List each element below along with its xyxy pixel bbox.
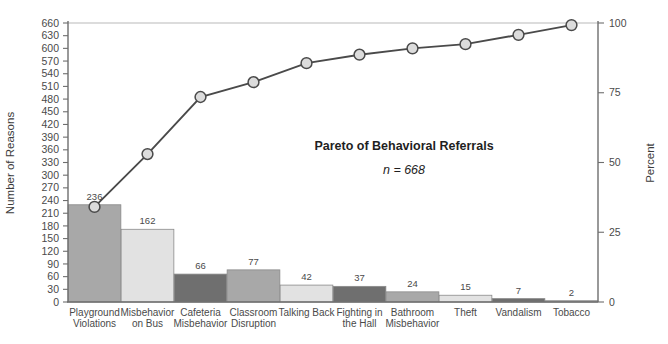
bar[interactable] (280, 285, 333, 302)
bar-value-label: 24 (407, 278, 418, 289)
line-marker[interactable] (513, 29, 524, 40)
y-tick-label: 510 (41, 80, 59, 92)
x-category-label: Theft (454, 307, 477, 318)
line-marker[interactable] (407, 43, 418, 54)
line-marker[interactable] (354, 49, 365, 60)
chart-canvas: 0306090120150180210240270300330360390420… (0, 0, 668, 344)
y-axis-title: Number of Reasons (4, 112, 16, 215)
bar-value-label: 77 (248, 256, 259, 267)
y2-tick-label: 0 (609, 296, 615, 308)
y-tick-label: 360 (41, 143, 59, 155)
bar-value-label: 15 (460, 281, 471, 292)
y-tick-label: 630 (41, 29, 59, 41)
x-category-label: on Bus (132, 318, 163, 329)
bar-value-label: 66 (195, 260, 206, 271)
line-markers (89, 20, 577, 213)
pareto-chart: 0306090120150180210240270300330360390420… (0, 0, 668, 344)
y-tick-label: 90 (47, 258, 59, 270)
right-axis: 0255075100 (598, 17, 627, 308)
cumulative-line (95, 25, 572, 207)
y-tick-label: 60 (47, 270, 59, 282)
y-tick-label: 450 (41, 105, 59, 117)
bar-value-label: 162 (140, 215, 156, 226)
bar[interactable] (227, 270, 280, 302)
x-category-label: Tobacco (553, 307, 591, 318)
y-tick-label: 180 (41, 220, 59, 232)
y2-axis-title: Percent (644, 142, 656, 182)
category-labels: PlaygroundViolationsMisbehavioron BusCaf… (69, 307, 590, 329)
chart-subtitle: n = 668 (383, 163, 425, 177)
left-axis: 0306090120150180210240270300330360390420… (41, 17, 68, 308)
y-tick-label: 240 (41, 194, 59, 206)
chart-titles: Pareto of Behavioral Referralsn = 668 (314, 139, 493, 177)
line-marker[interactable] (89, 201, 100, 212)
y-tick-label: 300 (41, 169, 59, 181)
y-tick-label: 480 (41, 93, 59, 105)
y-tick-label: 390 (41, 131, 59, 143)
bar-value-label: 37 (354, 272, 365, 283)
y-tick-label: 540 (41, 67, 59, 79)
line-marker[interactable] (195, 92, 206, 103)
y-tick-label: 0 (53, 296, 59, 308)
y-tick-label: 420 (41, 118, 59, 130)
cumulative-percent-line (95, 25, 572, 207)
y-tick-label: 210 (41, 207, 59, 219)
bar-value-label: 7 (516, 285, 521, 296)
x-category-label: Cafeteria (180, 307, 221, 318)
x-category-label: Talking Back (278, 307, 335, 318)
y-tick-label: 570 (41, 55, 59, 67)
bar-value-label: 42 (301, 271, 312, 282)
y-tick-label: 30 (47, 283, 59, 295)
bar[interactable] (386, 292, 439, 302)
line-marker[interactable] (301, 58, 312, 69)
y-tick-label: 330 (41, 156, 59, 168)
x-category-label: Disruption (231, 318, 276, 329)
y2-tick-label: 75 (609, 86, 621, 98)
line-marker[interactable] (566, 20, 577, 31)
bar-value-label: 2 (569, 287, 574, 298)
bar[interactable] (439, 295, 492, 302)
x-category-label: Misbehavior (121, 307, 176, 318)
x-category-label: Misbehavior (386, 318, 441, 329)
x-category-label: Classroom (230, 307, 278, 318)
bar[interactable] (121, 229, 174, 302)
x-category-label: Fighting in (336, 307, 382, 318)
y2-tick-label: 25 (609, 226, 621, 238)
x-category-label: Violations (73, 318, 116, 329)
y-tick-label: 600 (41, 42, 59, 54)
y2-tick-label: 100 (609, 17, 627, 29)
y-tick-label: 150 (41, 232, 59, 244)
y-tick-label: 120 (41, 245, 59, 257)
x-category-label: Bathroom (391, 307, 434, 318)
y-tick-label: 660 (41, 17, 59, 29)
y-tick-label: 270 (41, 181, 59, 193)
y2-tick-label: 50 (609, 156, 621, 168)
x-category-label: Misbehavior (174, 318, 229, 329)
bar[interactable] (174, 274, 227, 302)
bar[interactable] (68, 205, 121, 302)
chart-title: Pareto of Behavioral Referrals (314, 139, 493, 153)
line-marker[interactable] (248, 77, 259, 88)
x-category-label: Playground (69, 307, 120, 318)
x-category-label: the Hall (343, 318, 377, 329)
x-category-label: Vandalism (496, 307, 542, 318)
line-marker[interactable] (460, 39, 471, 50)
bar[interactable] (333, 286, 386, 302)
line-marker[interactable] (142, 149, 153, 160)
